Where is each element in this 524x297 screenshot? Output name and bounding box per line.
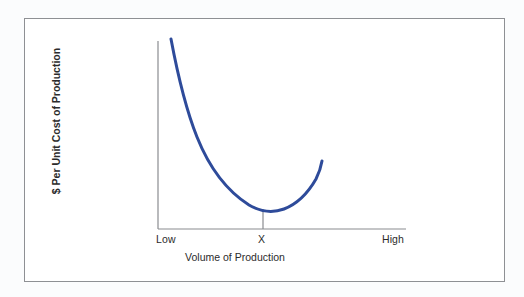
cost-curve-path <box>171 39 322 211</box>
y-axis-title: $ Per Unit Cost of Production <box>50 31 62 211</box>
x-axis-tick-label-high: High <box>382 233 404 245</box>
x-axis-tick-label-x: X <box>258 233 265 245</box>
chart-plot-area: Low X High Volume of Production $ Per Un… <box>25 19 504 281</box>
x-axis-tick-label-low: Low <box>156 233 176 245</box>
figure-frame: Low X High Volume of Production $ Per Un… <box>24 18 505 282</box>
x-axis-title: Volume of Production <box>25 251 445 263</box>
